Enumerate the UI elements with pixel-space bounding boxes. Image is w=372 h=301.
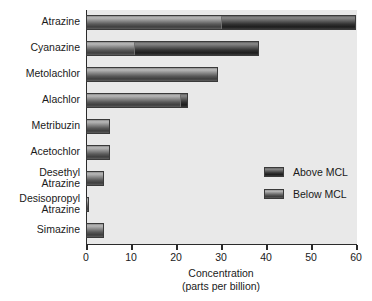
y-axis-label: Desethyl Atrazine — [0, 167, 80, 190]
y-axis-label: Desisopropyl Atrazine — [0, 193, 80, 216]
bar — [86, 197, 89, 212]
x-axis-tick — [311, 245, 313, 250]
bar-segment-below-mcl — [87, 224, 103, 237]
bar-segment-below-mcl — [87, 16, 221, 29]
legend-swatch — [264, 189, 284, 199]
x-axis-tick — [356, 245, 358, 250]
legend-item: Above MCL — [264, 163, 348, 181]
bar-segment-below-mcl — [87, 146, 109, 159]
x-axis-title-line2: (parts per billion) — [86, 280, 356, 293]
y-axis-label: Acetochlor — [0, 146, 80, 158]
bar-segment-below-mcl — [87, 42, 134, 55]
x-axis-tick — [176, 245, 178, 250]
x-axis-tick-label: 0 — [66, 251, 106, 263]
y-axis-label: Metolachlor — [0, 68, 80, 80]
bar — [86, 223, 104, 238]
legend-swatch — [264, 167, 284, 177]
bar-segment-below-mcl — [87, 198, 88, 211]
legend-label: Above MCL — [293, 166, 348, 178]
y-axis-label: Cyanazine — [0, 42, 80, 54]
bar-segment-above-mcl — [135, 42, 259, 55]
bar — [86, 171, 104, 186]
y-axis-label: Metribuzin — [0, 120, 80, 132]
bar — [86, 93, 188, 108]
x-axis-title: Concentration (parts per billion) — [86, 267, 356, 293]
y-axis-label: Atrazine — [0, 16, 80, 28]
bar — [86, 145, 110, 160]
bar — [86, 41, 259, 56]
x-axis-tick-label: 50 — [291, 251, 331, 263]
legend-item: Below MCL — [264, 185, 348, 203]
x-axis-tick — [221, 245, 223, 250]
x-axis-tick-label: 20 — [156, 251, 196, 263]
bar — [86, 15, 356, 30]
bar-segment-below-mcl — [87, 94, 180, 107]
x-axis-tick-label: 40 — [246, 251, 286, 263]
x-axis-tick — [131, 245, 133, 250]
x-axis-tick — [86, 245, 88, 250]
bar-segment-above-mcl — [181, 94, 188, 107]
y-axis-label: Alachlor — [0, 94, 80, 106]
x-axis-tick-label: 10 — [111, 251, 151, 263]
y-axis-label: Simazine — [0, 224, 80, 236]
legend-label: Below MCL — [293, 188, 347, 200]
bar-segment-below-mcl — [87, 172, 103, 185]
legend: Above MCLBelow MCL — [264, 163, 348, 207]
bar — [86, 67, 218, 82]
x-axis-tick-label: 60 — [336, 251, 372, 263]
x-axis-title-line1: Concentration — [86, 267, 356, 280]
bar — [86, 119, 110, 134]
bar-segment-above-mcl — [222, 16, 355, 29]
bar-chart: AtrazineCyanazineMetolachlorAlachlorMetr… — [0, 0, 372, 301]
bar-segment-below-mcl — [87, 120, 109, 133]
bar-segment-below-mcl — [87, 68, 217, 81]
x-axis-tick — [266, 245, 268, 250]
x-axis-tick-label: 30 — [201, 251, 241, 263]
